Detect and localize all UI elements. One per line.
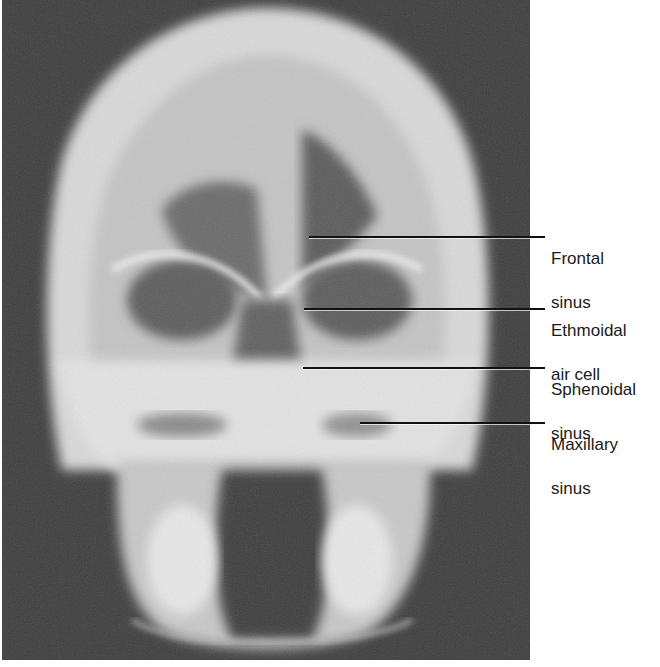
leader-line-frontal bbox=[309, 236, 545, 238]
leader-line-ethmoidal bbox=[304, 308, 545, 310]
leader-line-maxillary bbox=[360, 422, 545, 424]
label-maxillary-sinus: Maxillary sinus bbox=[551, 412, 618, 522]
label-line1: Maxillary bbox=[551, 434, 618, 456]
leader-line-sphenoidal bbox=[303, 367, 545, 369]
skull-radiograph bbox=[2, 0, 530, 660]
label-line1: Ethmoidal bbox=[551, 320, 627, 342]
label-line1: Frontal bbox=[551, 248, 604, 270]
label-line2: sinus bbox=[551, 478, 618, 500]
skull-illustration bbox=[2, 0, 530, 660]
label-line1: Sphenoidal bbox=[551, 379, 636, 401]
